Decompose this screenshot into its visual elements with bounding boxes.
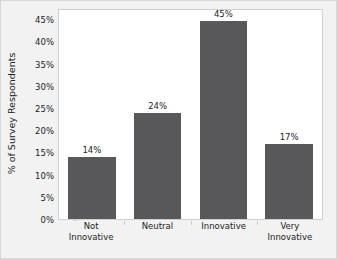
x-category-label-line: Neutral <box>124 221 190 232</box>
bar-group: 17% <box>256 10 322 219</box>
x-category-label-line: Not <box>58 221 124 232</box>
bar-value-label: 45% <box>191 9 257 19</box>
y-tick-label: 10% <box>35 171 54 181</box>
x-category-label: NotInnovative <box>58 221 124 243</box>
x-category-label-line: Innovative <box>191 221 257 232</box>
bar-rect[interactable] <box>134 113 181 219</box>
y-tick-label: 0% <box>41 215 55 225</box>
bar-value-label: 17% <box>256 132 322 142</box>
y-axis-title-text: % of Survey Respondents <box>7 53 18 175</box>
x-category-label-line: Very <box>257 221 323 232</box>
bar-rect[interactable] <box>68 157 115 219</box>
y-tick-label: 35% <box>35 60 54 70</box>
y-tick-label: 15% <box>35 148 54 158</box>
y-axis-title: % of Survey Respondents <box>1 1 23 226</box>
x-tick-mark <box>191 221 192 225</box>
x-tick-mark <box>124 221 125 225</box>
y-tick-label: 45% <box>35 15 54 25</box>
y-tick-label: 5% <box>41 193 55 203</box>
x-tick-mark <box>257 221 258 225</box>
y-axis-tick-labels: 0%5%10%15%20%25%30%35%40%45% <box>21 1 56 220</box>
bars-layer: 14%24%45%17% <box>59 10 322 219</box>
y-tick-label: 25% <box>35 104 54 114</box>
y-tick-label: 20% <box>35 126 54 136</box>
x-category-label-line: Innovative <box>58 232 124 243</box>
y-tick-label: 40% <box>35 37 54 47</box>
x-category-label: VeryInnovative <box>257 221 323 243</box>
y-tick-label: 30% <box>35 82 54 92</box>
x-category-label: Neutral <box>124 221 190 232</box>
bar-value-label: 24% <box>125 101 191 111</box>
bar-group: 45% <box>191 10 257 219</box>
bar-group: 14% <box>59 10 125 219</box>
x-category-label: Innovative <box>191 221 257 232</box>
x-axis-category-labels: NotInnovativeNeutralInnovativeVeryInnova… <box>58 221 323 257</box>
plot-area: 14%24%45%17% <box>58 9 323 220</box>
bar-rect[interactable] <box>265 144 312 219</box>
x-category-label-line: Innovative <box>257 232 323 243</box>
bar-value-label: 14% <box>59 145 125 155</box>
bar-rect[interactable] <box>200 21 247 219</box>
bar-chart-figure: % of Survey Respondents 0%5%10%15%20%25%… <box>0 0 337 259</box>
bar-group: 24% <box>125 10 191 219</box>
